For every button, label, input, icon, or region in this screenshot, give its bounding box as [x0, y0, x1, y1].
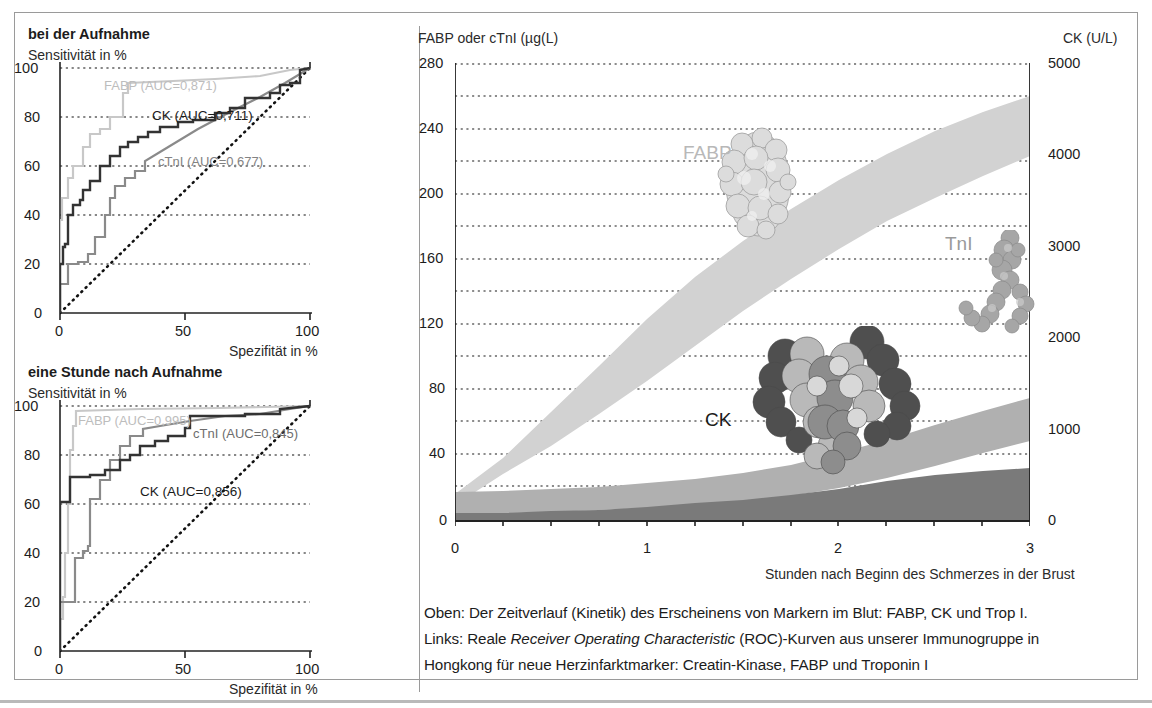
kinetics-ylabel-right: CK (U/L): [1063, 30, 1117, 46]
roc-bottom-label-ck: CK (AUC=0,856): [140, 484, 242, 499]
roc-top-ytick-0: 0: [34, 305, 42, 321]
kinetics-label-ck: CK: [705, 409, 731, 431]
roc-top-diagonal: [60, 68, 310, 313]
kinetics-xtick-1: 1: [643, 540, 651, 556]
roc-top-label-ctni: cTnI (AUC=0,677): [158, 154, 263, 169]
kinetics-xlabel: Stunden nach Beginn des Schmerzes in der…: [765, 566, 1075, 582]
caption-line-2-prefix: Links: Reale: [424, 630, 511, 647]
roc-top-ytick-80: 80: [24, 109, 40, 125]
kinetics-xtick-0: 0: [451, 540, 459, 556]
roc-bottom-diagonal: [60, 406, 310, 651]
roc-bottom-xtick-0: 0: [55, 661, 63, 677]
caption-line-2-suffix: (ROC)-Kurven aus unserer Immunogruppe in: [735, 630, 1039, 647]
kinetics-ytick-160: 160: [419, 250, 443, 266]
roc-bottom-svg: [0, 338, 404, 688]
caption-line-3: Hongkong für neue Herzinfarktmarker: Cre…: [424, 656, 928, 673]
kinetics-ylabel-left: FABP oder cTnI (µg(L): [418, 30, 558, 46]
roc-bottom-xlabel: Spezifität in %: [229, 681, 318, 697]
roc-bottom-ytick-0: 0: [34, 643, 42, 659]
kinetics-rtick-2000: 2000: [1048, 329, 1080, 345]
kinetics-label-tni: TnI: [945, 233, 972, 255]
kinetics-rtick-3000: 3000: [1048, 238, 1080, 254]
roc-top-ytick-20: 20: [24, 256, 40, 272]
kinetics-xtick-2: 2: [834, 540, 842, 556]
kinetics-rtick-1000: 1000: [1048, 421, 1080, 437]
kinetics-ytick-200: 200: [419, 185, 443, 201]
caption-line-2: Links: Reale Receiver Operating Characte…: [424, 630, 1039, 647]
kinetics-ytick-120: 120: [419, 315, 443, 331]
roc-bottom-xtick-100: 100: [295, 661, 319, 677]
roc-top-label-ck: CK (AUC=0,711): [152, 108, 253, 123]
kinetics-xtick-3: 3: [1026, 540, 1034, 556]
ck-protein-icon: [747, 326, 929, 478]
kinetics-ytick-0: 0: [439, 512, 447, 528]
roc-bottom-ytick-20: 20: [24, 594, 40, 610]
figure-page: bei der Aufnahme Sensitivität in %: [0, 0, 1152, 708]
kinetics-ytick-40: 40: [429, 445, 445, 461]
roc-top-xtick-0: 0: [55, 323, 63, 339]
kinetics-rtick-0: 0: [1048, 512, 1056, 528]
kinetics-ytick-240: 240: [419, 120, 443, 136]
roc-bottom-label-ctni: cTnI (AUC=0,845): [193, 426, 298, 441]
roc-top-ytick-40: 40: [24, 207, 40, 223]
roc-bottom-label-fabp: FABP (AUC=0,995): [78, 413, 191, 428]
roc-top-label-fabp: FABP (AUC=0,871): [104, 78, 217, 93]
fabp-protein-icon: [712, 122, 804, 244]
roc-bottom-ytick-80: 80: [24, 447, 40, 463]
roc-top-xtick-50: 50: [175, 323, 191, 339]
roc-bottom-ytick-60: 60: [24, 496, 40, 512]
kinetics-rtick-4000: 4000: [1048, 146, 1080, 162]
roc-top-svg: [0, 0, 404, 350]
roc-top-ytick-60: 60: [24, 158, 40, 174]
roc-top-xtick-100: 100: [295, 323, 319, 339]
roc-bottom-ytick-40: 40: [24, 545, 40, 561]
kinetics-ytick-280: 280: [419, 55, 443, 71]
caption-line-2-italic: Receiver Operating Characteristic: [511, 630, 736, 647]
kinetics-ytick-80: 80: [429, 380, 445, 396]
roc-bottom-ytick-100: 100: [14, 398, 38, 414]
kinetics-label-fabp: FABP: [683, 142, 732, 164]
roc-bottom-xtick-50: 50: [175, 661, 191, 677]
caption-line-1: Oben: Der Zeitverlauf (Kinetik) des Ersc…: [424, 604, 1028, 621]
kinetics-rtick-5000: 5000: [1048, 55, 1080, 71]
roc-top-ytick-100: 100: [14, 60, 38, 76]
page-bottom-rule: [0, 700, 1152, 703]
